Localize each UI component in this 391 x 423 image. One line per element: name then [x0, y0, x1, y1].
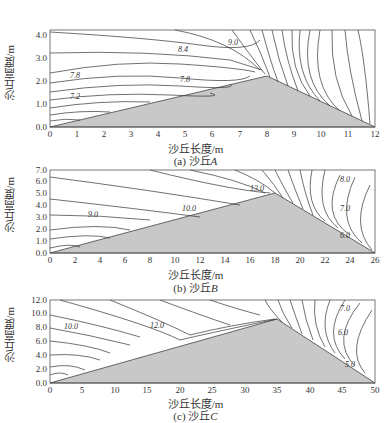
svg-text:2.0: 2.0 [36, 364, 48, 374]
svg-text:0: 0 [48, 385, 53, 395]
y-axis-label-b: 沙丘高度/m [2, 177, 18, 233]
svg-text:10: 10 [111, 385, 121, 395]
svg-text:18: 18 [271, 255, 281, 265]
svg-text:4.0: 4.0 [36, 200, 48, 210]
svg-text:9.0: 9.0 [88, 210, 98, 219]
svg-text:8.4: 8.4 [178, 45, 188, 54]
svg-text:4.0: 4.0 [36, 30, 48, 40]
svg-text:12: 12 [371, 129, 380, 139]
svg-text:30: 30 [241, 385, 251, 395]
svg-text:15: 15 [143, 385, 153, 395]
svg-text:7.0: 7.0 [340, 304, 350, 313]
svg-text:0.0: 0.0 [36, 378, 48, 388]
svg-text:14: 14 [221, 255, 231, 265]
svg-text:7.2: 7.2 [70, 92, 80, 101]
svg-text:10: 10 [171, 255, 181, 265]
svg-text:0: 0 [48, 255, 53, 265]
svg-text:8.0: 8.0 [36, 322, 48, 332]
svg-text:2.0: 2.0 [36, 224, 48, 234]
svg-text:12: 12 [196, 255, 205, 265]
svg-text:8.0: 8.0 [340, 175, 350, 184]
contour-plot-b: 9.0 10.0 13.0 8.0 7.0 6.0 024 6810 12141… [0, 165, 391, 265]
svg-text:5: 5 [183, 129, 188, 139]
svg-text:45: 45 [338, 385, 348, 395]
svg-text:8: 8 [148, 255, 153, 265]
svg-text:3: 3 [129, 129, 134, 139]
y-ticks-c: 0.02.04.0 6.08.010.0 12.0 [31, 295, 47, 388]
y-axis-label-c: 沙丘高度/m [2, 307, 18, 363]
svg-text:0.0: 0.0 [36, 248, 48, 258]
svg-text:10: 10 [317, 129, 327, 139]
svg-text:24: 24 [346, 255, 356, 265]
y-axis-label-a: 沙丘高度/m [2, 45, 18, 101]
svg-text:1.0: 1.0 [36, 236, 48, 246]
svg-text:10.0: 10.0 [31, 308, 47, 318]
svg-text:0.0: 0.0 [36, 122, 48, 132]
svg-text:5: 5 [80, 385, 85, 395]
svg-text:6: 6 [210, 129, 215, 139]
svg-text:10.0: 10.0 [64, 322, 78, 331]
svg-text:4: 4 [156, 129, 161, 139]
svg-text:6.0: 6.0 [36, 336, 48, 346]
svg-text:7: 7 [238, 129, 243, 139]
svg-text:25: 25 [208, 385, 218, 395]
contour-plot-c: 10.0 12.0 7.0 6.0 5.0 0510 152025 303540… [0, 295, 391, 395]
svg-text:12.0: 12.0 [31, 295, 47, 305]
svg-text:6.0: 6.0 [338, 328, 348, 337]
svg-text:7.0: 7.0 [340, 204, 350, 213]
panel-a: 7.2 7.8 7.8 8.4 9.0 012 345 678 91011 12… [0, 0, 391, 140]
x-ticks-a: 012 345 678 91011 12 [48, 129, 380, 139]
svg-text:40: 40 [306, 385, 316, 395]
svg-text:0: 0 [48, 129, 53, 139]
caption-b: (b) 沙丘B [0, 279, 391, 295]
svg-text:1.0: 1.0 [36, 99, 48, 109]
svg-text:2: 2 [102, 129, 107, 139]
svg-text:1: 1 [75, 129, 80, 139]
caption-c: (c) 沙丘C [0, 407, 391, 423]
svg-text:11: 11 [344, 129, 353, 139]
svg-text:26: 26 [371, 255, 381, 265]
panel-b: 9.0 10.0 13.0 8.0 7.0 6.0 024 6810 12141… [0, 165, 391, 265]
svg-text:50: 50 [371, 385, 381, 395]
svg-text:2.0: 2.0 [36, 76, 48, 86]
svg-text:20: 20 [176, 385, 186, 395]
svg-text:3.0: 3.0 [36, 53, 48, 63]
x-ticks-b: 024 6810 121416 182022 2426 [48, 255, 380, 265]
x-ticks-c: 0510 152025 303540 4550 [48, 385, 380, 395]
y-ticks-b: 0.01.02.0 3.04.05.0 6.07.0 [36, 165, 48, 258]
svg-text:6.0: 6.0 [340, 231, 350, 240]
svg-text:16: 16 [246, 255, 256, 265]
contour-plot-a: 7.2 7.8 7.8 8.4 9.0 012 345 678 91011 12… [0, 0, 391, 140]
y-ticks-a: 0.01.02.0 3.04.0 [36, 30, 48, 132]
panel-c: 10.0 12.0 7.0 6.0 5.0 0510 152025 303540… [0, 295, 391, 395]
svg-text:22: 22 [321, 255, 330, 265]
svg-text:35: 35 [273, 385, 283, 395]
svg-text:6.0: 6.0 [36, 176, 48, 186]
svg-text:9.0: 9.0 [228, 38, 238, 47]
svg-text:13.0: 13.0 [250, 184, 264, 193]
svg-text:12.0: 12.0 [150, 321, 164, 330]
svg-text:4: 4 [98, 255, 103, 265]
svg-text:3.0: 3.0 [36, 212, 48, 222]
svg-text:8: 8 [265, 129, 270, 139]
svg-text:20: 20 [296, 255, 306, 265]
svg-text:5.0: 5.0 [345, 360, 355, 369]
svg-text:7.0: 7.0 [36, 165, 48, 175]
svg-text:6: 6 [123, 255, 128, 265]
svg-text:2: 2 [73, 255, 78, 265]
svg-text:10.0: 10.0 [182, 204, 196, 213]
svg-text:7.8: 7.8 [70, 71, 80, 80]
svg-text:4.0: 4.0 [36, 350, 48, 360]
svg-text:9: 9 [292, 129, 297, 139]
svg-text:5.0: 5.0 [36, 188, 48, 198]
svg-text:7.8: 7.8 [180, 75, 190, 84]
